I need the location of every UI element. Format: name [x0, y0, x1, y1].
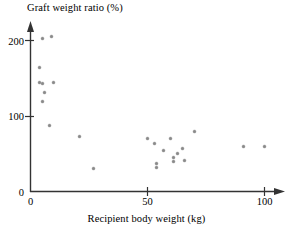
- data-point: [181, 147, 184, 150]
- y-tick-label: 200: [8, 35, 24, 46]
- x-axis-arrow: [274, 188, 285, 195]
- data-point: [41, 82, 44, 85]
- data-point: [193, 130, 196, 133]
- y-axis-arrow: [27, 21, 34, 32]
- data-point: [48, 124, 51, 127]
- y-tick-label: 0: [19, 187, 24, 198]
- x-tick-label: 100: [257, 196, 273, 207]
- data-point: [172, 160, 175, 163]
- plot-area: 0100200050100: [0, 0, 293, 235]
- x-axis-title: Recipient body weight (kg): [0, 213, 293, 225]
- data-point: [146, 137, 149, 140]
- x-tick-label: 50: [142, 196, 153, 207]
- data-point: [41, 100, 44, 103]
- data-point: [242, 145, 245, 148]
- x-tick-label: 0: [28, 196, 33, 207]
- y-tick-label: 100: [8, 111, 24, 122]
- data-point: [172, 156, 175, 159]
- scatter-plot-figure: Graft weight ratio (%) 0100200050100 Rec…: [0, 0, 293, 235]
